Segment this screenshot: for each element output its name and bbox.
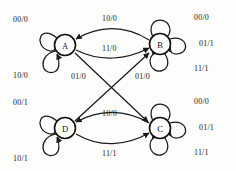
state-label-a: A [62,41,69,51]
label-transition-a-to-c: 01/0 [71,72,86,82]
state-diagram-svg: A B D C [0,0,236,171]
state-label-b: B [157,40,163,50]
label-self-loop-b-bottom: 11/1 [194,64,209,74]
label-transition-d-to-c: 11/1 [102,149,117,159]
label-self-loop-d-top: 00/1 [13,98,28,108]
self-loop-a-bottom [43,51,59,72]
label-transition-c-to-d: 10/0 [102,109,117,119]
self-loop-d-bottom [43,134,59,155]
label-self-loop-b-top: 00/0 [194,13,209,23]
label-self-loop-c-bottom: 11/1 [194,148,209,158]
label-self-loop-a-bottom: 10/0 [13,71,28,81]
transition-b-to-a [76,29,149,40]
state-label-d: D [62,124,68,134]
self-loop-c-bottom [150,137,168,155]
self-loop-b-right [170,38,186,54]
label-transition-d-to-b: 01/0 [135,72,150,82]
state-diagram-canvas: A B D C 00/0 10/0 00/0 01/1 11/1 00/1 10… [0,0,236,171]
label-self-loop-d-bottom: 10/1 [13,154,28,164]
self-loop-c-right [170,122,186,138]
label-self-loop-b-right: 01/1 [199,39,214,49]
label-self-loop-c-right: 01/1 [199,123,214,133]
label-self-loop-c-top: 00/0 [194,97,209,107]
transition-d-to-c [76,133,149,144]
label-transition-a-to-b: 11/0 [102,44,117,54]
label-transition-b-to-a: 10/0 [102,14,117,24]
state-label-c: C [157,124,163,134]
self-loop-b-bottom [150,53,168,71]
label-self-loop-a-top: 00/0 [13,15,28,25]
